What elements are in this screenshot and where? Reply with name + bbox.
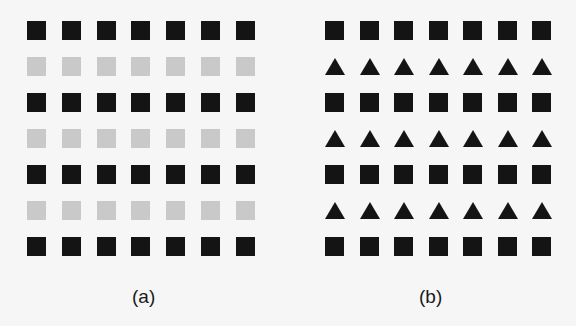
black-triangle-marker [325,58,345,75]
gray-square-marker [62,57,81,76]
black-square-marker [166,165,185,184]
black-square-marker [62,165,81,184]
black-triangle-marker [325,130,345,147]
black-square-marker [62,21,81,40]
gray-square-marker [131,129,150,148]
black-square-marker [97,93,116,112]
gray-square-marker [27,129,46,148]
black-triangle-marker [463,202,483,219]
black-square-marker [532,165,551,184]
black-square-marker [360,93,379,112]
gray-square-marker [131,201,150,220]
black-square-marker [360,165,379,184]
black-square-marker [325,93,344,112]
black-square-marker [27,237,46,256]
black-square-marker [236,237,255,256]
black-triangle-marker [360,202,380,219]
black-triangle-marker [532,130,552,147]
gray-square-marker [201,129,220,148]
black-square-marker [325,165,344,184]
black-square-marker [236,165,255,184]
black-square-marker [131,21,150,40]
gray-square-marker [97,57,116,76]
black-square-marker [325,21,344,40]
black-square-marker [463,93,482,112]
black-square-marker [236,21,255,40]
black-square-marker [131,93,150,112]
black-square-marker [429,21,448,40]
black-triangle-marker [429,202,449,219]
black-square-marker [498,165,517,184]
gray-square-marker [27,57,46,76]
black-square-marker [498,237,517,256]
black-square-marker [131,237,150,256]
black-square-marker [394,93,413,112]
black-triangle-marker [463,58,483,75]
black-square-marker [166,21,185,40]
black-triangle-marker [429,58,449,75]
black-square-marker [62,93,81,112]
black-triangle-marker [498,202,518,219]
black-square-marker [498,93,517,112]
black-square-marker [463,165,482,184]
black-square-marker [166,93,185,112]
black-square-marker [429,237,448,256]
gray-square-marker [236,201,255,220]
black-square-marker [394,21,413,40]
black-square-marker [360,21,379,40]
black-triangle-marker [463,130,483,147]
black-square-marker [532,21,551,40]
black-square-marker [532,237,551,256]
black-square-marker [97,165,116,184]
panel-a-label: (a) [132,286,155,308]
gray-square-marker [97,201,116,220]
black-triangle-marker [325,202,345,219]
gray-square-marker [27,201,46,220]
black-square-marker [97,237,116,256]
black-triangle-marker [394,130,414,147]
gray-square-marker [236,129,255,148]
gray-square-marker [131,57,150,76]
black-square-marker [394,165,413,184]
black-square-marker [429,165,448,184]
gray-square-marker [166,201,185,220]
gray-square-marker [62,129,81,148]
black-square-marker [325,237,344,256]
gray-square-marker [166,57,185,76]
black-square-marker [201,21,220,40]
black-triangle-marker [532,202,552,219]
black-square-marker [463,21,482,40]
gray-square-marker [97,129,116,148]
black-square-marker [27,93,46,112]
black-square-marker [201,93,220,112]
black-square-marker [201,165,220,184]
panel-b-label: (b) [419,286,442,308]
black-square-marker [27,165,46,184]
black-square-marker [360,237,379,256]
black-triangle-marker [532,58,552,75]
gray-square-marker [201,201,220,220]
black-square-marker [429,93,448,112]
black-square-marker [27,21,46,40]
black-triangle-marker [498,58,518,75]
gray-square-marker [166,129,185,148]
black-square-marker [463,237,482,256]
black-square-marker [97,21,116,40]
black-square-marker [62,237,81,256]
black-square-marker [201,237,220,256]
gray-square-marker [201,57,220,76]
gray-square-marker [62,201,81,220]
black-square-marker [394,237,413,256]
black-triangle-marker [394,202,414,219]
black-triangle-marker [394,58,414,75]
panel-b: (b) [288,0,576,326]
black-square-marker [236,93,255,112]
black-square-marker [131,165,150,184]
black-triangle-marker [498,130,518,147]
black-square-marker [166,237,185,256]
panel-a: (a) [0,0,288,326]
black-square-marker [532,93,551,112]
black-triangle-marker [429,130,449,147]
gray-square-marker [236,57,255,76]
black-square-marker [498,21,517,40]
